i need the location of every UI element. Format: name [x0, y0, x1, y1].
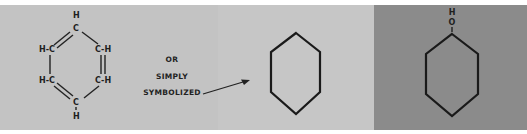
benzene-structural-formula: H C H-C C-H H-C C-H C H: [0, 5, 218, 130]
benzene-hexagon-symbol: [218, 5, 374, 130]
atom-o: O: [449, 18, 456, 27]
atom-top-h: H: [73, 11, 80, 20]
caption-symbolized: SYMBOLIZED: [143, 88, 201, 97]
atom-top-c: C: [73, 24, 79, 33]
atom-lower-left: H-C: [39, 76, 55, 85]
atom-bottom-h: H: [73, 112, 80, 121]
atom-upper-left: H-C: [39, 45, 55, 54]
bond-top-right: [82, 32, 98, 44]
atom-lower-right: C-H: [95, 76, 111, 85]
atom-h: H: [449, 8, 456, 17]
diagram-strip: H C H-C C-H H-C C-H C H: [0, 5, 527, 130]
atom-bottom-c: C: [73, 98, 79, 107]
cyclohexanol-symbol: H O: [374, 5, 527, 130]
substituted-hexagon-panel: H O: [374, 5, 527, 130]
bond-bottom-right: [84, 86, 99, 98]
simple-hexagon-panel: [218, 5, 374, 130]
caption-simply: SIMPLY: [156, 72, 188, 81]
hexagon-ring: [426, 34, 478, 116]
hexagon-ring: [271, 33, 320, 114]
atom-upper-right: C-H: [95, 45, 111, 54]
structural-formula-panel: H C H-C C-H H-C C-H C H: [0, 5, 218, 130]
caption-or: OR: [166, 55, 179, 64]
